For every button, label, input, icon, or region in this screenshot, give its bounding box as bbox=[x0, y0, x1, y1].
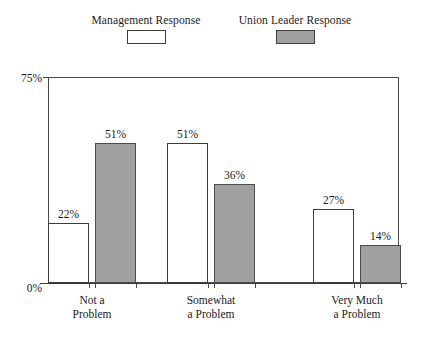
category-label-line1-0: Not a bbox=[79, 294, 104, 306]
bar-value-label-management-0: 22% bbox=[44, 208, 93, 220]
category-label-line1-2: Very Much bbox=[331, 294, 382, 306]
legend-entry-union: Union Leader Response bbox=[215, 14, 375, 44]
bar-management-1 bbox=[167, 143, 208, 283]
bar-value-label-union-2: 14% bbox=[356, 230, 405, 242]
x-axis-tick-0 bbox=[89, 283, 90, 288]
bar-union-2 bbox=[360, 245, 401, 283]
category-label-2: Very Mucha Problem bbox=[297, 293, 417, 321]
x-axis-tick-8 bbox=[401, 283, 402, 288]
bar-value-label-management-2: 27% bbox=[309, 194, 358, 206]
bars-layer: 22%51%51%36%27%14% bbox=[48, 77, 399, 283]
legend-label-union: Union Leader Response bbox=[215, 14, 375, 27]
bar-value-label-union-0: 51% bbox=[91, 128, 140, 140]
category-label-line2-1: a Problem bbox=[151, 307, 271, 321]
x-axis-tick-4 bbox=[214, 283, 215, 288]
bar-union-1 bbox=[214, 184, 255, 283]
category-label-0: Not aProblem bbox=[32, 293, 152, 321]
category-label-line2-0: Problem bbox=[32, 307, 152, 321]
y-axis-tick-label-top: 75% bbox=[0, 72, 42, 84]
chart-legend: Management Response Union Leader Respons… bbox=[0, 14, 425, 50]
bar-union-0 bbox=[95, 143, 136, 283]
x-axis-tick-2 bbox=[136, 283, 137, 288]
x-axis-tick-1 bbox=[95, 283, 96, 288]
category-label-line2-2: a Problem bbox=[297, 307, 417, 321]
bar-management-2 bbox=[313, 209, 354, 283]
legend-label-management: Management Response bbox=[66, 14, 226, 27]
x-axis-tick-3 bbox=[208, 283, 209, 288]
grouped-bar-chart: Management Response Union Leader Respons… bbox=[0, 0, 425, 341]
legend-swatch-management bbox=[127, 30, 166, 44]
x-axis-tick-6 bbox=[354, 283, 355, 288]
category-label-line1-1: Somewhat bbox=[187, 294, 236, 306]
category-label-1: Somewhata Problem bbox=[151, 293, 271, 321]
bar-value-label-management-1: 51% bbox=[163, 128, 212, 140]
legend-swatch-union bbox=[276, 30, 315, 44]
bar-value-label-union-1: 36% bbox=[210, 169, 259, 181]
x-axis-tick-7 bbox=[360, 283, 361, 288]
x-axis-tick-5 bbox=[255, 283, 256, 288]
legend-entry-management: Management Response bbox=[66, 14, 226, 44]
bar-management-0 bbox=[48, 223, 89, 283]
